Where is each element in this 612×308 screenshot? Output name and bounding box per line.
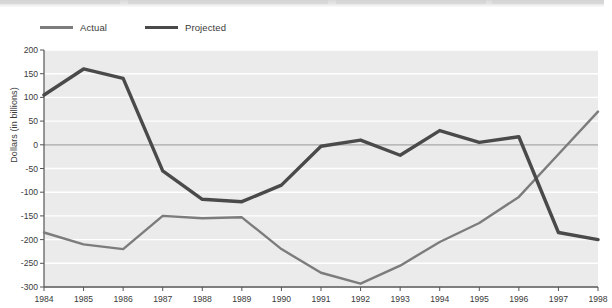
y-tick-label: 200 — [8, 45, 38, 55]
x-tick-label: 1988 — [182, 294, 222, 304]
y-tick-label: -150 — [8, 211, 38, 221]
x-tick-label: 1989 — [222, 294, 262, 304]
y-tick-label: -50 — [8, 164, 38, 174]
y-tick-label: -300 — [8, 282, 38, 292]
x-tick-label: 1985 — [64, 294, 104, 304]
y-tick-label: 50 — [8, 116, 38, 126]
x-tick-label: 1990 — [261, 294, 301, 304]
x-tick-label: 1996 — [499, 294, 539, 304]
y-tick-label: -250 — [8, 258, 38, 268]
y-tick-label: 0 — [8, 140, 38, 150]
x-tick-label: 1987 — [143, 294, 183, 304]
x-tick-label: 1986 — [103, 294, 143, 304]
x-tick-label: 1994 — [420, 294, 460, 304]
y-tick-label: 100 — [8, 92, 38, 102]
x-tick-label: 1997 — [538, 294, 578, 304]
x-tick-label: 1991 — [301, 294, 341, 304]
y-tick-label: -200 — [8, 235, 38, 245]
x-tick-label: 1998 — [578, 294, 612, 304]
x-tick-label: 1995 — [459, 294, 499, 304]
x-tick-label: 1992 — [341, 294, 381, 304]
y-tick-label: -100 — [8, 187, 38, 197]
x-tick-label: 1993 — [380, 294, 420, 304]
y-tick-label: 150 — [8, 69, 38, 79]
x-tick-label: 1984 — [24, 294, 64, 304]
